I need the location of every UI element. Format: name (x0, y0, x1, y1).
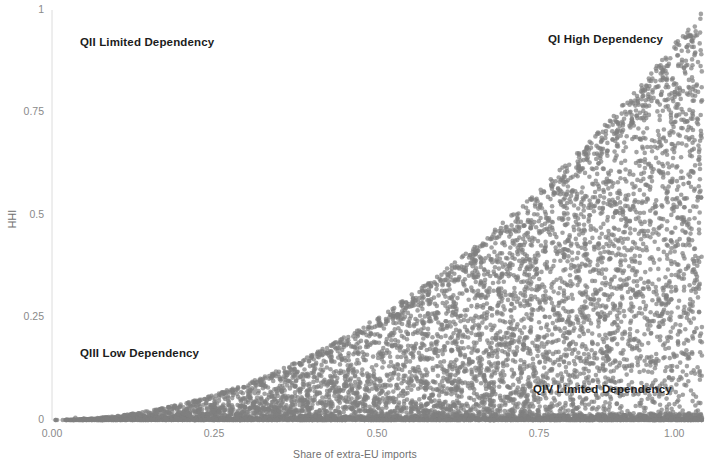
x-tick-label: 0.50 (347, 427, 407, 439)
x-axis-label: Share of extra-EU imports (0, 448, 710, 460)
y-tick-label: 1 (2, 3, 44, 15)
quadrant-label-qii: QII Limited Dependency (80, 36, 214, 48)
plot-canvas (0, 0, 710, 467)
x-tick-label: 1.00 (664, 427, 708, 439)
quadrant-label-qi: QI High Dependency (548, 33, 663, 45)
y-tick-label: 0.75 (2, 105, 44, 117)
quadrant-label-qiv: QIV Limited Dependency (533, 383, 672, 395)
y-tick-label: 0.25 (2, 310, 44, 322)
y-tick-label: 0 (2, 413, 44, 425)
data-points (53, 12, 704, 423)
x-tick-label: 0.75 (509, 427, 569, 439)
y-axis-label: HHI (6, 199, 18, 239)
x-tick-label: 0.00 (22, 427, 82, 439)
quadrant-label-qiii: QIII Low Dependency (80, 347, 199, 359)
scatter-chart-figure: 1 0.75 0.5 0.25 0 0.00 0.25 0.50 0.75 1.… (0, 0, 710, 467)
x-tick-label: 0.25 (184, 427, 244, 439)
